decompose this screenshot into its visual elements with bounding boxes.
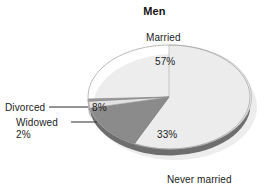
slice-label-divorced: Divorced (5, 102, 45, 113)
slice-value-divorced: 8% (92, 102, 107, 113)
slice-value-married: 57% (155, 56, 175, 67)
pie-chart-graphic (0, 0, 269, 191)
slice-value-widowed: 2% (16, 129, 31, 140)
slice-label-widowed: Widowed (16, 117, 58, 128)
chart-title: Men (0, 6, 269, 17)
pie-chart: Men Married 57% Never married 33% Divorc… (0, 0, 269, 191)
slice-label-married: Married (146, 32, 181, 43)
slice-value-never-married: 33% (157, 129, 177, 140)
slice-label-never-married: Never married (167, 174, 232, 185)
